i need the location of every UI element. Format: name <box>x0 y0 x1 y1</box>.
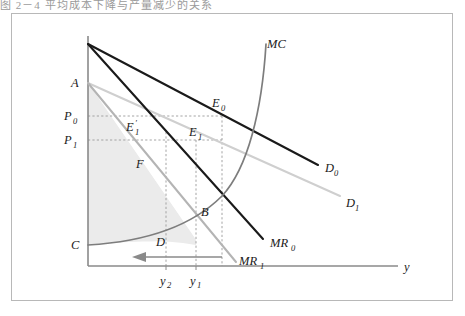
label-point-e1-sub: 1 <box>198 132 202 142</box>
label-point-e1-prime-sub: 1 <box>135 127 139 137</box>
axis-label-x: y <box>402 260 410 274</box>
label-price-p0: P <box>63 109 72 123</box>
label-curve-mc: MC <box>266 37 286 51</box>
label-point-f: F <box>135 157 144 171</box>
economics-diagram: A C P 0 P 1 E 1 ′ E 1 E 0 F B D MC D 0 D… <box>0 0 465 316</box>
tick-label-y1-sub: 1 <box>197 280 201 290</box>
label-point-e0-sub: 0 <box>221 103 226 113</box>
tick-label-y1: y <box>188 274 196 288</box>
label-price-p0-sub: 0 <box>73 116 78 126</box>
label-curve-d1-sub: 1 <box>355 203 359 213</box>
label-point-e1-prime: E <box>125 120 134 134</box>
label-curve-mr0-sub: 0 <box>291 243 296 253</box>
tick-label-y2-sub: 2 <box>167 280 172 290</box>
label-curve-mr1-sub: 1 <box>260 261 264 271</box>
label-point-e1-prime-mark: ′ <box>135 118 137 128</box>
label-point-a: A <box>70 76 79 90</box>
label-curve-d0: D <box>324 161 334 175</box>
label-price-p1-sub: 1 <box>73 140 77 150</box>
label-point-b: B <box>201 205 209 219</box>
label-curve-mr0: MR <box>269 236 288 250</box>
label-price-p1: P <box>63 133 72 147</box>
label-point-c: C <box>71 238 80 252</box>
tick-label-y2: y <box>158 274 166 288</box>
figure-root: 图 2－4 平均成本下降与产量减少的关系 A <box>0 0 465 316</box>
label-curve-d1: D <box>345 196 355 210</box>
label-curve-mr1: MR <box>238 254 257 268</box>
label-curve-d0-sub: 0 <box>334 168 339 178</box>
shift-arrow-head <box>132 252 146 262</box>
label-point-e1: E <box>188 125 197 139</box>
label-point-e0: E <box>211 96 220 110</box>
label-point-d: D <box>155 235 165 249</box>
